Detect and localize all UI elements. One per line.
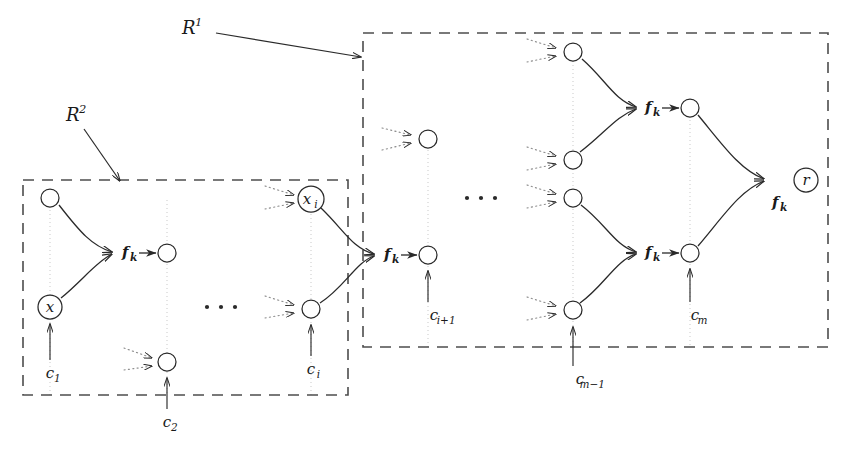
ellipsis-markers (205, 196, 497, 309)
function-label-fk-root: fk (771, 193, 787, 213)
dotted-incoming-edge (265, 313, 294, 318)
node-circle (564, 301, 582, 319)
node-n-xi: xi (298, 186, 324, 212)
ellipsis-ellipsis-left (205, 305, 237, 309)
node-n-out-mid (419, 246, 437, 264)
region-label-superscript: 1 (195, 15, 202, 29)
graph-edge (582, 59, 636, 107)
ellipsis-ellipsis-right (465, 196, 497, 200)
node-n-x: x (38, 295, 62, 319)
dotted-incoming-edge (527, 147, 556, 156)
node-n-float (419, 130, 437, 148)
node-n-r2 (564, 151, 582, 169)
region-pointer-arrow (84, 129, 120, 181)
function-labels: fkfkfkfkfk (121, 98, 787, 265)
annotation-label-subscript: m−1 (579, 378, 604, 390)
dotted-incoming-edge (527, 185, 556, 194)
function-label-subscript: k (130, 251, 137, 263)
dotted-incoming-edge (124, 348, 152, 358)
node-n-top-left (41, 189, 59, 207)
graph-edge (580, 109, 636, 152)
annotation-cm1: cm−1 (573, 327, 605, 390)
node-circle (158, 244, 176, 262)
dotted-incoming-edge (382, 143, 411, 150)
function-label-subscript: k (653, 106, 660, 118)
ellipsis-dot (479, 196, 483, 200)
graph-edge (580, 254, 636, 303)
node-n-out-lower (681, 244, 699, 262)
graph-edges (59, 59, 764, 303)
dotted-incoming-edge (527, 56, 556, 62)
figure-canvas: xxir fkfkfkfkfk c1c2cici+1cm−1cm R1R2 (0, 0, 849, 449)
annotation-label-subscript: i (317, 368, 320, 380)
node-n-r1 (564, 43, 582, 61)
function-label-subscript: k (653, 251, 660, 263)
node-n-c2 (158, 353, 176, 371)
node-circle (681, 99, 699, 117)
node-circle (41, 189, 59, 207)
function-label-subscript: k (392, 253, 399, 265)
annotation-label-subscript: i+1 (437, 314, 456, 326)
ellipsis-dot (233, 305, 237, 309)
annotation-ci1: ci+1 (428, 271, 456, 326)
dotted-incoming-edge (382, 128, 411, 135)
node-n-out-upper (681, 99, 699, 117)
dotted-incoming-edge (527, 39, 556, 48)
ellipsis-dot (465, 196, 469, 200)
node-label-subscript: i (314, 198, 317, 210)
region-label-base: R (181, 17, 196, 38)
region-label-base: R (65, 104, 80, 125)
node-circle (419, 130, 437, 148)
node-n-out-left (158, 244, 176, 262)
incoming-dotted-edges (124, 39, 556, 370)
annotation-label-subscript: m (697, 314, 707, 326)
function-label-fk-upper: fk (644, 98, 660, 118)
annotation-label-subscript: 2 (170, 421, 178, 433)
node-circle (419, 246, 437, 264)
function-label-fk-lower: fk (644, 243, 660, 263)
alignment-guides (50, 45, 690, 395)
node-label: r (802, 171, 810, 189)
annotation-ci: ci (307, 325, 320, 380)
dotted-incoming-edge (527, 164, 556, 170)
node-label: x (46, 298, 55, 316)
region-label-superscript: 2 (78, 102, 86, 116)
annotation-c2: c2 (163, 378, 178, 433)
region-pointer-arrow (216, 33, 361, 57)
dotted-incoming-edge (527, 314, 556, 320)
annotation-label-subscript: 1 (54, 372, 61, 384)
node-n-root: r (794, 168, 818, 192)
annotation-c1: c1 (46, 324, 61, 384)
node-circle (681, 244, 699, 262)
ellipsis-dot (219, 305, 223, 309)
diagram-svg: xxir fkfkfkfkfk c1c2cici+1cm−1cm R1R2 (0, 0, 849, 449)
node-label: x (303, 190, 312, 208)
node-n-ci (302, 300, 320, 318)
function-label-fk-mid: fk (383, 245, 399, 265)
graph-edge (61, 254, 112, 298)
region-box-R2 (23, 180, 348, 395)
region-labels: R1R2 (65, 15, 361, 181)
ellipsis-dot (493, 196, 497, 200)
function-label-subscript: k (780, 201, 787, 213)
node-annotations: c1c2cici+1cm−1cm (46, 269, 708, 433)
graph-edge (698, 115, 764, 179)
graph-edge (698, 181, 764, 246)
dotted-incoming-edge (265, 203, 294, 209)
graph-edge (321, 208, 374, 254)
dotted-incoming-edge (527, 297, 556, 306)
graph-edge (581, 205, 636, 252)
node-circle (564, 151, 582, 169)
dotted-incoming-edge (265, 296, 294, 305)
node-circle (564, 43, 582, 61)
region-label-R1: R1 (181, 15, 361, 57)
graph-edge (59, 205, 112, 252)
graph-edge (320, 256, 374, 303)
region-label-R2: R2 (65, 102, 120, 181)
node-circle (158, 353, 176, 371)
region-boxes (23, 33, 828, 395)
node-n-r4 (564, 301, 582, 319)
dotted-incoming-edge (265, 186, 294, 195)
function-label-fk-left: fk (121, 243, 137, 263)
node-n-r3 (564, 189, 582, 207)
